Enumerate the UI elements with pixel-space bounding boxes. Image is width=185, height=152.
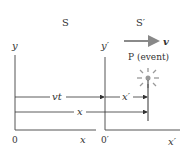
- y-axis-label: y: [11, 40, 18, 51]
- frame-s-prime-axes: [105, 57, 180, 130]
- x-axis-label: x: [80, 134, 86, 145]
- frame-s-label: S: [62, 17, 69, 28]
- reference-frames-diagram: S S′ v y 0 x y′ 0′ x′ P (event) vt x′ x: [0, 0, 185, 152]
- y-prime-axis-label: y′: [100, 40, 110, 51]
- velocity-label: v: [163, 36, 169, 47]
- origin-prime-label: 0′: [101, 135, 109, 145]
- x-measure-label: x: [77, 106, 83, 117]
- event-label: P (event): [128, 52, 169, 62]
- vt-label: vt: [52, 91, 63, 102]
- origin-label: 0: [12, 135, 18, 145]
- x-prime-measure-label: x′: [122, 91, 131, 102]
- frame-s-prime-label: S′: [136, 17, 146, 28]
- x-prime-axis-label: x′: [168, 136, 177, 147]
